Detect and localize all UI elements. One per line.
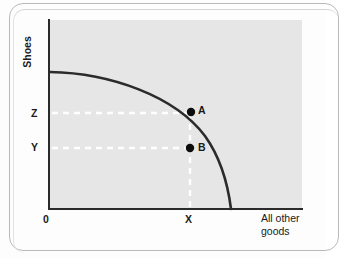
origin-label: 0	[43, 213, 49, 225]
x-axis-label: All other goods	[261, 212, 323, 238]
y-tick-label-y: Y	[31, 141, 38, 153]
data-point-a	[187, 108, 195, 116]
y-tick-label-z: Z	[31, 107, 37, 119]
x-axis-label-line1: All other	[261, 212, 323, 225]
x-tick-label-x: X	[185, 213, 192, 225]
point-label-b: B	[198, 141, 206, 153]
point-label-a: A	[198, 104, 206, 116]
data-point-b	[186, 144, 194, 152]
y-axis-label: Shoes	[21, 22, 33, 82]
x-axis-label-line2: goods	[261, 225, 323, 238]
